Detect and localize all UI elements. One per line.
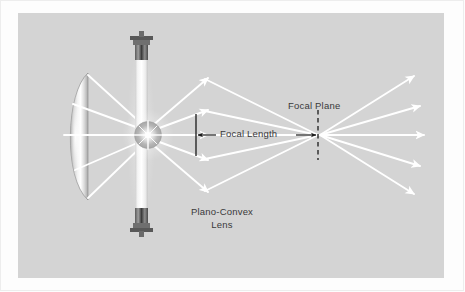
plano-convex-lens-label: Plano-Convex Lens (191, 205, 253, 231)
plano-convex-lens (70, 73, 88, 200)
ray-bundle-output (320, 76, 424, 194)
lamp-bulb (122, 109, 174, 161)
optics-diagram (0, 0, 465, 292)
ray-output-down-near (320, 135, 420, 166)
figure-root: Focal Length Focal Plane Plano-Convex Le… (0, 0, 465, 292)
focal-plane-label: Focal Plane (288, 100, 340, 112)
plano-convex-lens-label-line2: Lens (191, 218, 253, 231)
focal-length-label: Focal Length (220, 128, 277, 140)
plano-convex-lens-label-line1: Plano-Convex (191, 205, 253, 218)
ray-output-down-far (320, 135, 414, 194)
ray-converge-down-far (205, 135, 318, 191)
